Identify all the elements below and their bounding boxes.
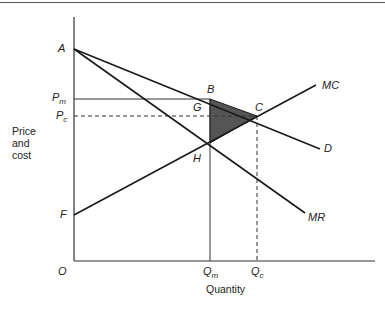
point-a-label: A: [58, 43, 65, 54]
y-axis-title-line-1: Price: [12, 125, 36, 137]
pm-label: Pm: [52, 92, 66, 107]
y-axis-title-line-3: cost: [12, 149, 36, 161]
pc-label: Pc: [56, 110, 67, 125]
point-f-label: F: [60, 209, 67, 220]
y-axis-title-line-2: and: [12, 137, 36, 149]
qm-sub: m: [212, 271, 219, 280]
qc-label: Qc: [251, 266, 264, 281]
point-h-label: H: [193, 153, 201, 164]
qm-label: Qm: [203, 266, 218, 281]
point-c-label: C: [255, 102, 263, 113]
point-b-label: B: [207, 84, 214, 95]
mr-curve: [74, 49, 305, 213]
qm-main: Q: [203, 265, 212, 277]
origin-label: O: [58, 266, 67, 277]
point-g-label: G: [193, 102, 202, 113]
mr-label: MR: [308, 212, 325, 223]
demand-label: D: [324, 143, 332, 154]
pm-sub: m: [59, 97, 66, 106]
x-axis-title: Quantity: [206, 283, 245, 295]
y-axis-title: Price and cost: [12, 125, 36, 161]
qc-main: Q: [251, 265, 260, 277]
qc-sub: c: [260, 271, 264, 280]
mc-label: MC: [322, 80, 339, 91]
pc-sub: c: [63, 115, 67, 124]
